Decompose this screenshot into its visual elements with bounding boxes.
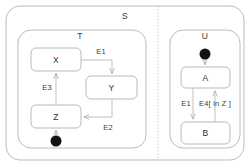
diagram-vector-layer: [0, 0, 251, 166]
state-label-Z: Z: [53, 112, 58, 121]
state-label-X: X: [53, 55, 59, 64]
transition-label-E4-B-to-A: E4[ in Z ]: [199, 100, 231, 108]
transition-label-E1-X-to-Y: E1: [96, 48, 106, 56]
outer-state-label-S: S: [122, 12, 128, 21]
transition-label-E3-Z-to-X: E3: [42, 84, 52, 92]
state-label-A: A: [203, 73, 209, 82]
region-label-U: U: [202, 32, 208, 41]
transition-label-E2-Y-to-Z: E2: [103, 124, 113, 132]
statechart-diagram-canvas: S T U X Y Z A B E1 E2 E3 E1 E4[ in Z ]: [0, 0, 251, 166]
state-label-B: B: [203, 129, 209, 138]
region-label-T: T: [77, 32, 82, 41]
state-label-Y: Y: [109, 83, 115, 92]
transition-label-E1-A-to-B: E1: [181, 100, 191, 108]
initial-state-T: [51, 136, 62, 147]
initial-state-U: [200, 49, 211, 60]
